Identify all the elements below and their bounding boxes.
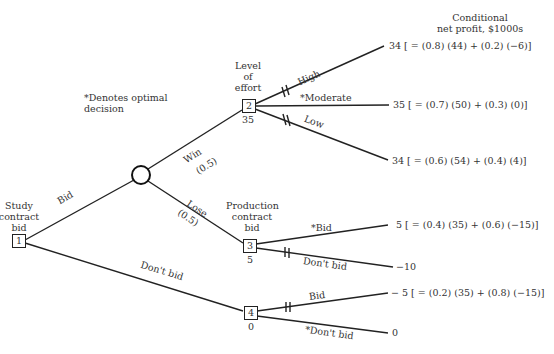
payoff-high: 34 [ = (0.8) (44) + (0.2) (−6)]: [389, 40, 532, 51]
payoff-low: 34 [ = (0.6) (54) + (0.4) (4)]: [392, 155, 527, 166]
branch-label-n4-bid: Bid: [308, 289, 325, 302]
prune-mark-low: [283, 114, 290, 126]
payoff-title-line1: Conditional: [420, 12, 540, 23]
node2-label-line: Level: [232, 60, 264, 71]
decision-node-3: 3: [243, 239, 257, 253]
payoff-n3-bid: 5 [ = (0.4) (35) + (0.6) (−15)]: [396, 219, 539, 230]
node3-label-line: Production: [226, 200, 278, 211]
chance-node: [132, 166, 150, 184]
payoff-n4-bid: − 5 [ = (0.2) (35) + (0.8) (−15)]: [391, 287, 545, 298]
decision-tree-lines: [0, 0, 554, 354]
payoff-moderate: 35 [ = (0.7) (50) + (0.3) (0)]: [393, 99, 528, 110]
node3-label-line: bid: [226, 222, 278, 233]
node3-value: 5: [247, 254, 253, 265]
node1-label: Study contract bid: [0, 200, 40, 233]
branch-bid: [25, 180, 134, 240]
legend-line2: decision: [84, 103, 168, 114]
node3-label: Production contract bid: [226, 200, 278, 233]
node4-value: 0: [248, 321, 254, 332]
node1-label-line: bid: [0, 222, 40, 233]
payoff-n4-dont-bid: 0: [392, 327, 398, 338]
node2-label: Level of effort: [232, 60, 264, 93]
legend: *Denotes optimal decision: [84, 92, 168, 114]
node2-label-line: effort: [232, 82, 264, 93]
payoff-title-line2: net profit, $1000s: [420, 23, 540, 34]
payoff-title: Conditional net profit, $1000s: [420, 12, 540, 34]
branch-moderate: [256, 105, 389, 106]
decision-node-4: 4: [244, 306, 258, 320]
branch-label-moderate: *Moderate: [300, 92, 352, 103]
node3-label-line: contract: [226, 211, 278, 222]
node2-value: 35: [242, 114, 254, 125]
branch-dont-bid: [25, 243, 243, 311]
decision-node-2: 2: [242, 99, 256, 113]
legend-line1: *Denotes optimal: [84, 92, 168, 103]
payoff-n3-dont-bid: −10: [396, 261, 416, 272]
branch-label-n3-bid: *Bid: [311, 222, 332, 233]
node1-label-line: Study: [0, 200, 40, 211]
node1-label-line: contract: [0, 211, 40, 222]
branch-low: [255, 109, 388, 160]
decision-node-1: 1: [12, 234, 26, 248]
node2-label-line: of: [232, 71, 264, 82]
